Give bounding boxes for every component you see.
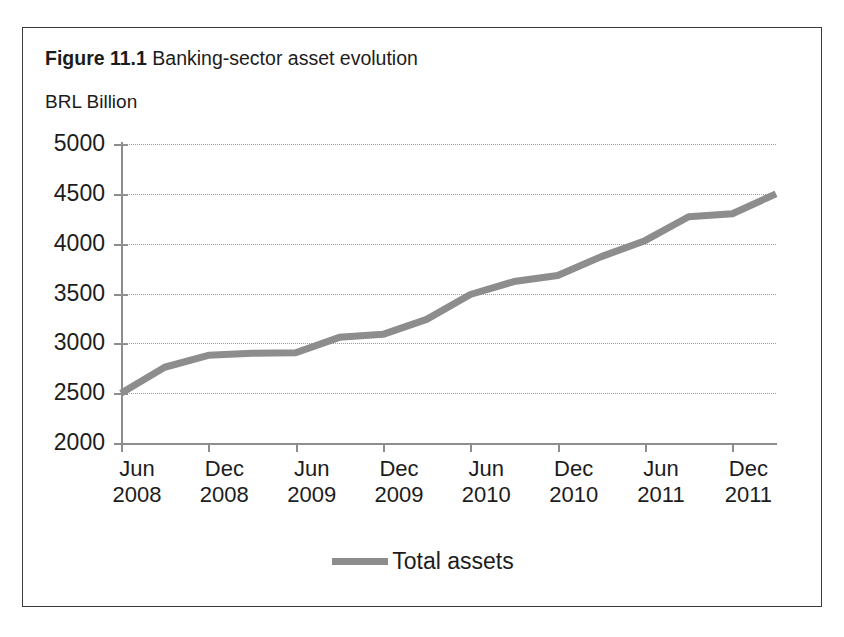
x-axis-tick — [732, 443, 734, 452]
x-axis-line — [120, 443, 777, 445]
x-axis-tick-month: Dec — [703, 456, 793, 482]
x-axis-tick-year: 2010 — [529, 482, 619, 508]
legend-label-total-assets: Total assets — [392, 548, 513, 574]
x-axis-tick-year: 2009 — [267, 482, 357, 508]
x-axis-tick — [558, 443, 560, 452]
x-axis-tick — [121, 443, 123, 452]
x-axis-tick-year: 2011 — [616, 482, 706, 508]
x-axis-tick — [383, 443, 385, 452]
y-axis-tick-label: 3500 — [0, 282, 105, 305]
x-axis-tick-label: Dec2009 — [354, 456, 444, 508]
x-axis-tick-label: Jun2008 — [92, 456, 182, 508]
x-axis-tick-year: 2009 — [354, 482, 444, 508]
y-axis-tick-label: 2500 — [0, 381, 105, 404]
y-axis-tick-label: 4000 — [0, 232, 105, 255]
x-axis-tick-month: Jun — [267, 456, 357, 482]
x-axis-tick-label: Jun2011 — [616, 456, 706, 508]
total-assets-polyline — [121, 194, 776, 393]
x-axis-tick-year: 2011 — [703, 482, 793, 508]
y-axis-unit-label: BRL Billion — [45, 91, 137, 113]
x-axis-tick-label: Dec2008 — [179, 456, 269, 508]
plot-area — [121, 144, 776, 443]
x-axis-tick-year: 2010 — [441, 482, 531, 508]
x-axis-tick — [470, 443, 472, 452]
x-axis-tick-month: Dec — [179, 456, 269, 482]
x-axis-tick-month: Jun — [616, 456, 706, 482]
x-axis-tick-label: Jun2009 — [267, 456, 357, 508]
x-axis-tick-month: Jun — [441, 456, 531, 482]
x-axis-tick-month: Dec — [354, 456, 444, 482]
y-axis-tick-label: 4500 — [0, 182, 105, 205]
x-axis-tick-year: 2008 — [179, 482, 269, 508]
x-axis-tick-label: Dec2011 — [703, 456, 793, 508]
x-axis-tick-month: Jun — [92, 456, 182, 482]
x-axis-tick — [208, 443, 210, 452]
y-axis-tick-label: 2000 — [0, 431, 105, 454]
y-axis-tick-label: 5000 — [0, 132, 105, 155]
chart-legend: Total assets — [23, 548, 823, 574]
figure-caption-label: Figure 11.1 — [45, 47, 147, 69]
x-axis-tick-year: 2008 — [92, 482, 182, 508]
x-axis-tick-month: Dec — [529, 456, 619, 482]
x-axis-tick — [296, 443, 298, 452]
legend-line-swatch — [332, 558, 388, 565]
series-line-total-assets — [121, 144, 776, 443]
x-axis-tick-label: Dec2010 — [529, 456, 619, 508]
x-axis-tick-label: Jun2010 — [441, 456, 531, 508]
figure-frame: Figure 11.1 Banking-sector asset evoluti… — [22, 27, 822, 607]
figure-caption-text: Banking-sector asset evolution — [152, 47, 418, 69]
figure-caption: Figure 11.1 Banking-sector asset evoluti… — [45, 46, 418, 70]
x-axis-tick — [645, 443, 647, 452]
y-axis-tick-label: 3000 — [0, 331, 105, 354]
